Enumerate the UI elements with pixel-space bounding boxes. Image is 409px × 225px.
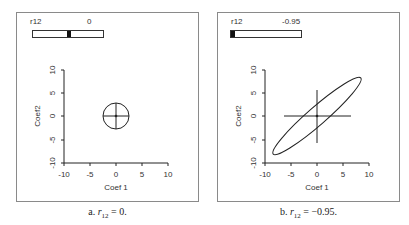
svg-text:Coef2: Coef2 [33,105,42,127]
svg-text:-10: -10 [58,170,70,179]
svg-text:-10: -10 [259,170,271,179]
panel-a: r12 0 -10 -5 0 [16,12,199,202]
svg-text:Coef 1: Coef 1 [305,183,329,192]
svg-text:10: 10 [249,65,258,74]
svg-text:10: 10 [48,65,57,74]
svg-text:-10: -10 [249,157,258,169]
svg-text:0: 0 [315,170,320,179]
svg-text:-5: -5 [48,136,57,144]
svg-text:-5: -5 [86,170,94,179]
plot-area: -10 -5 0 5 10 Coef 1 10 5 0 -5 -10 Coef2 [218,13,401,203]
svg-text:-10: -10 [48,157,57,169]
caption-b: b. r12 = −0.95. [217,206,400,220]
svg-text:-5: -5 [249,136,258,144]
svg-text:5: 5 [249,90,258,95]
svg-text:0: 0 [114,170,119,179]
panel-b: r12 -0.95 -10 -5 0 5 1 [217,12,400,202]
svg-text:0: 0 [249,113,258,118]
caption-a: a. r12 = 0. [16,206,199,220]
svg-text:0: 0 [48,113,57,118]
svg-text:10: 10 [365,170,374,179]
svg-text:-5: -5 [287,170,295,179]
svg-text:Coef2: Coef2 [234,105,243,127]
svg-text:5: 5 [48,90,57,95]
plot-area: -10 -5 0 5 10 Coef 1 10 5 0 -5 -10 Coef2 [17,13,200,203]
svg-text:5: 5 [140,170,145,179]
svg-text:10: 10 [164,170,173,179]
svg-text:5: 5 [341,170,346,179]
svg-text:Coef 1: Coef 1 [104,183,128,192]
